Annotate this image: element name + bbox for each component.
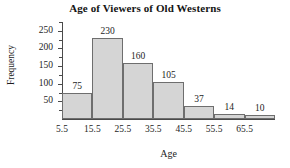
y-axis-tick: 200 — [58, 48, 62, 49]
y-axis-tick-label: 150 — [39, 60, 53, 70]
bar — [214, 114, 244, 119]
bar-value-label: 10 — [243, 103, 277, 113]
x-axis-label: Age — [62, 148, 275, 159]
bar-value-label: 160 — [121, 51, 155, 61]
bar-value-label: 14 — [212, 102, 246, 112]
chart-title: Age of Viewers of Old Westerns — [0, 2, 290, 14]
y-axis-minor-tick — [59, 40, 62, 41]
y-axis-tick-label: 250 — [39, 25, 53, 35]
y-axis-tick-label: 200 — [39, 42, 53, 52]
y-axis-minor-tick — [59, 57, 62, 58]
bar-value-label: 230 — [91, 26, 125, 36]
bar — [184, 106, 214, 119]
x-axis-tick-label: 25.5 — [109, 124, 137, 134]
bar — [92, 38, 122, 119]
y-axis-label: Frequency — [6, 28, 16, 102]
histogram-chart: Age of Viewers of Old Westerns Frequency… — [0, 0, 290, 168]
bar-value-label: 37 — [182, 94, 216, 104]
x-axis-line — [62, 119, 275, 120]
bar — [245, 115, 275, 119]
x-axis-tick-label: 15.5 — [78, 124, 106, 134]
bar-value-label: 75 — [60, 81, 94, 91]
bar — [123, 63, 153, 119]
plot-area: 50100150200250 5.515.525.535.545.555.565… — [62, 22, 275, 120]
y-axis-tick: 150 — [58, 66, 62, 67]
bar — [62, 93, 92, 119]
bar-value-label: 105 — [152, 70, 186, 80]
x-axis-tick-label: 35.5 — [139, 124, 167, 134]
bar — [153, 82, 183, 119]
y-axis-tick-label: 100 — [39, 78, 53, 88]
x-axis-tick-label: 45.5 — [170, 124, 198, 134]
x-axis-tick-label: 5.5 — [48, 124, 76, 134]
y-axis-tick: 250 — [58, 31, 62, 32]
x-axis-tick-label: 55.5 — [200, 124, 228, 134]
x-axis-tick-label: 65.5 — [231, 124, 259, 134]
y-axis-minor-tick — [59, 22, 62, 23]
y-axis-minor-tick — [59, 75, 62, 76]
y-axis-tick-label: 50 — [44, 95, 54, 105]
